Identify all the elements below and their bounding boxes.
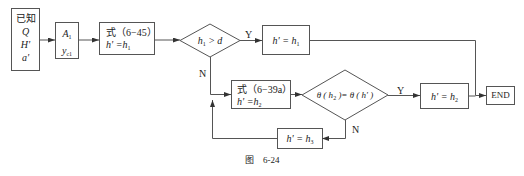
a1-sub: 1 (69, 34, 72, 40)
known-q: Q (11, 25, 40, 38)
node-eq645: 式（6−45） h' =h1 (106, 27, 157, 54)
eq639a-assign: h' =h (237, 96, 258, 107)
set-h2-sub: 2 (455, 97, 458, 103)
known-h: H' (11, 38, 40, 51)
label-dec2-no: N (352, 124, 359, 135)
label-dec2-yes: Y (397, 85, 404, 96)
set-h2-text: h' = h (431, 91, 455, 102)
dec1-rest: > d (206, 35, 223, 46)
node-eq639a: 式（6−39a） h' =h2 (237, 84, 292, 111)
label-dec1-yes: Y (245, 29, 252, 40)
eq645-title: 式（6−45） (106, 27, 157, 39)
dec2-b: )= θ ( h' ) (336, 90, 373, 100)
node-set-h1: h' = h1 (262, 35, 310, 50)
node-set-h3: h' = h3 (277, 133, 323, 148)
set-h3-text: h' = h (287, 133, 311, 144)
figure-caption: 图 6-24 (245, 155, 280, 166)
node-decision-1: h1 > d (185, 35, 235, 50)
set-h3-sub: 3 (310, 139, 313, 145)
dec2-a: θ ( h (317, 90, 333, 100)
known-a: a' (11, 51, 40, 64)
node-known: 已知 Q H' a' (11, 12, 40, 64)
eq645-sub: 1 (127, 45, 130, 51)
label-dec1-no: N (199, 68, 206, 79)
node-decision-2: θ ( h2 )= θ ( h' ) (304, 90, 386, 104)
node-a1-yc1: A1 yc1 (55, 27, 79, 61)
eq639a-title: 式（6−39a） (237, 84, 292, 96)
eq645-assign: h' =h (106, 39, 127, 50)
node-set-h2: h' = h2 (420, 91, 469, 106)
set-h1-sub: 1 (296, 41, 299, 47)
yc1-sub: c1 (66, 51, 72, 57)
node-end: END (486, 90, 515, 101)
set-h1-text: h' = h (273, 35, 297, 46)
known-label: 已知 (11, 12, 40, 25)
eq639a-sub: 2 (258, 102, 261, 108)
